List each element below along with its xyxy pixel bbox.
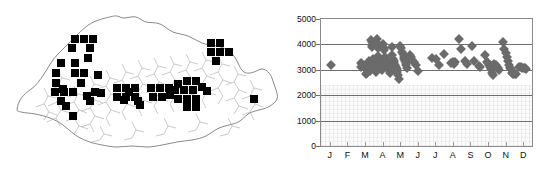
x-tick-mark: [383, 142, 384, 146]
map-occurrence-marker: [80, 35, 87, 42]
y-tick-mark: [316, 95, 320, 96]
map-occurrence-marker: [97, 89, 104, 96]
scatter-point: [434, 60, 444, 70]
x-tick-mark: [365, 142, 366, 146]
map-occurrence-marker: [183, 103, 190, 110]
map-occurrence-marker: [89, 35, 96, 42]
y-tick-label: 0: [292, 142, 316, 150]
map-occurrence-marker: [192, 103, 199, 110]
y-tick-mark: [316, 146, 320, 147]
x-tick-mark: [523, 142, 524, 146]
x-tick-label-j-5: J: [409, 150, 427, 160]
x-tick-mark: [506, 142, 507, 146]
map-occurrence-marker: [69, 88, 76, 95]
x-tick-mark: [488, 142, 489, 146]
x-tick-mark: [400, 142, 401, 146]
map-occurrence-marker: [51, 88, 58, 95]
distribution-map-panel: [0, 0, 290, 176]
x-tick-label-a-7: A: [444, 150, 462, 160]
y-tick-mark: [316, 70, 320, 71]
x-tick-label-m-4: M: [391, 150, 409, 160]
gridline-1000: [321, 121, 532, 122]
x-tick-mark: [418, 142, 419, 146]
x-tick-label-a-3: A: [374, 150, 392, 160]
map-occurrence-marker: [216, 39, 223, 46]
scatter-point: [326, 60, 336, 70]
y-tick-mark: [316, 121, 320, 122]
map-occurrence-marker: [192, 95, 199, 102]
elevation-scatter-panel: 500040003000200010000 JFMAMJJASOND: [292, 0, 547, 176]
map-occurrence-marker: [84, 54, 91, 61]
map-occurrence-marker: [203, 87, 210, 94]
gridline-2000: [321, 95, 532, 96]
map-occurrence-marker: [68, 44, 75, 51]
y-tick-label: 1000: [292, 117, 316, 125]
map-occurrence-marker: [158, 93, 165, 100]
y-tick-mark: [316, 19, 320, 20]
x-tick-label-m-2: M: [356, 150, 374, 160]
map-occurrence-marker: [86, 44, 93, 51]
scatter-point: [454, 34, 464, 44]
x-tick-label-n-10: N: [497, 150, 515, 160]
map-occurrence-marker: [225, 48, 232, 55]
map-occurrence-marker: [207, 39, 214, 46]
map-occurrence-marker: [59, 85, 66, 92]
y-tick-mark: [316, 44, 320, 45]
map-occurrence-marker: [113, 84, 120, 91]
map-occurrence-marker: [136, 101, 143, 108]
map-occurrence-marker: [120, 96, 127, 103]
map-occurrence-marker: [71, 59, 78, 66]
map-occurrence-marker: [212, 57, 219, 64]
x-tick-label-d-11: D: [514, 150, 532, 160]
x-tick-label-f-1: F: [338, 150, 356, 160]
figure-root: 500040003000200010000 JFMAMJJASOND: [0, 0, 547, 176]
x-tick-label-j-6: J: [426, 150, 444, 160]
bhutan-outline-map: [0, 0, 290, 176]
map-occurrence-marker: [80, 69, 87, 76]
map-occurrence-marker: [125, 88, 132, 95]
x-tick-mark: [470, 142, 471, 146]
x-tick-label-o-9: O: [479, 150, 497, 160]
map-occurrence-marker: [52, 69, 59, 76]
y-tick-label: 3000: [292, 66, 316, 74]
map-occurrence-marker: [180, 86, 187, 93]
y-tick-label: 4000: [292, 40, 316, 48]
map-occurrence-marker: [94, 71, 101, 78]
map-occurrence-marker: [71, 35, 78, 42]
x-tick-mark: [347, 142, 348, 146]
x-tick-label-j-0: J: [321, 150, 339, 160]
map-occurrence-marker: [57, 59, 64, 66]
map-occurrence-marker: [183, 77, 190, 84]
map-occurrence-marker: [216, 48, 223, 55]
map-occurrence-marker: [174, 95, 181, 102]
plot-area: [320, 18, 533, 147]
scatter-point: [467, 41, 477, 51]
map-occurrence-marker: [250, 95, 257, 102]
map-occurrence-marker: [71, 69, 78, 76]
map-occurrence-marker: [189, 86, 196, 93]
x-tick-label-s-8: S: [461, 150, 479, 160]
map-occurrence-marker: [62, 102, 69, 109]
y-tick-label: 2000: [292, 91, 316, 99]
map-occurrence-marker: [147, 84, 154, 91]
map-occurrence-marker: [69, 112, 76, 119]
map-occurrence-marker: [183, 95, 190, 102]
map-occurrence-marker: [156, 84, 163, 91]
x-tick-mark: [435, 142, 436, 146]
map-occurrence-marker: [166, 91, 173, 98]
x-tick-mark: [453, 142, 454, 146]
y-tick-label: 5000: [292, 15, 316, 23]
map-occurrence-marker: [83, 92, 90, 99]
map-occurrence-marker: [207, 48, 214, 55]
map-occurrence-marker: [77, 79, 84, 86]
map-occurrence-marker: [149, 93, 156, 100]
plot-background-shading: [321, 85, 532, 146]
x-tick-mark: [330, 142, 331, 146]
